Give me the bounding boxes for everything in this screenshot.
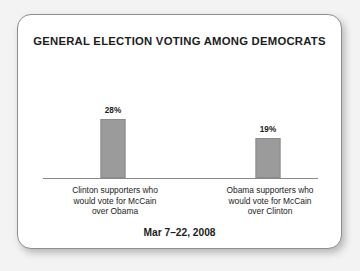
chart-card: GENERAL ELECTION VOTING AMONG DEMOCRATS …	[17, 14, 342, 249]
bar-value-label: 19%	[260, 125, 276, 134]
bar-value-label: 28%	[105, 106, 121, 115]
category-label-line: Obama supporters who	[200, 185, 340, 196]
category-label-line: over Clinton	[200, 206, 340, 217]
page-title: GENERAL ELECTION VOTING AMONG DEMOCRATS	[18, 35, 341, 47]
date-range-caption: Mar 7–22, 2008	[18, 227, 341, 238]
bar-obama	[256, 138, 281, 178]
category-label-line: would vote for McCain	[200, 196, 340, 207]
category-label-line: over Obama	[45, 206, 185, 217]
chart-screenshot: GENERAL ELECTION VOTING AMONG DEMOCRATS …	[0, 0, 360, 271]
category-label-obama: Obama supporters who would vote for McCa…	[200, 185, 340, 217]
bar-group-clinton: 28%	[63, 60, 163, 178]
category-label-line: would vote for McCain	[45, 196, 185, 207]
axis-baseline	[43, 178, 318, 179]
plot-area: 28% 19%	[43, 61, 318, 179]
category-label-clinton: Clinton supporters who would vote for Mc…	[45, 185, 185, 217]
bar-clinton	[101, 119, 126, 178]
category-label-line: Clinton supporters who	[45, 185, 185, 196]
bar-group-obama: 19%	[218, 60, 318, 178]
